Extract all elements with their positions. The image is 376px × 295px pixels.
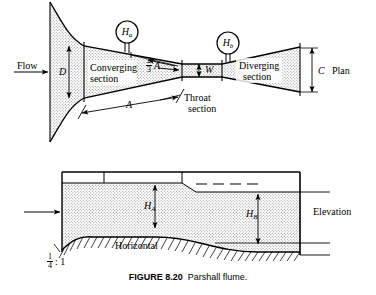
dimension-a-label: A [126,99,132,110]
throat-section-label-line1: Throat [184,92,211,103]
converging-section-label-line2: section [90,73,118,84]
parshall-flume-figure: Flow Ha Hb D C Plan W 23A A Converging s… [0,0,376,295]
figure-caption-number: FIGURE 8.20 [129,272,183,282]
slope-leader-line [54,244,60,252]
head-hb-label: HB [246,208,258,223]
dimension-two-thirds-a-label: 23A [146,57,160,74]
diverging-section-label-line2: section [243,71,271,82]
slope-ratio-label: 14: 1 [47,253,65,270]
converging-section-label-line1: Converging [90,62,137,73]
plan-view-label: Plan [332,65,350,76]
dimension-c-label: C [318,65,325,76]
elevation-water-fill [62,183,300,252]
dimension-d-label: D [59,66,66,77]
gauge-ha-label: Ha [117,26,137,39]
dimension-w-label: W [205,64,213,75]
flume-drawing [0,0,376,295]
dimension-a-tick-left [78,105,86,119]
elevation-view-group [24,172,330,261]
elevation-view-label: Elevation [313,206,351,217]
gauge-hb-label: Hb [218,37,238,50]
figure-caption-text: Parshall flume. [188,272,248,282]
figure-caption: FIGURE 8.20 Parshall flume. [0,272,376,282]
throat-section-label-line2: section [188,103,216,114]
flow-label: Flow [17,60,38,71]
horizontal-label: Horizontal [115,240,158,251]
diverging-section-label-line1: Diverging [239,60,279,71]
head-ha-label: HA [144,200,156,215]
